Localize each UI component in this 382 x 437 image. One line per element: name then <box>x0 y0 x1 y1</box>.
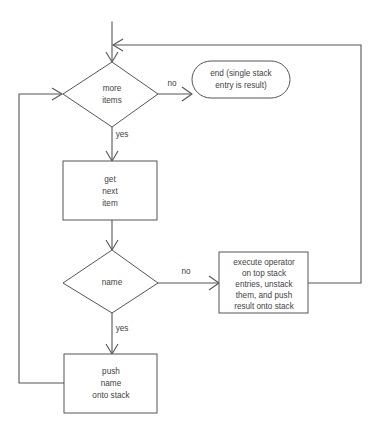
push-name-label-line2: name <box>101 379 122 388</box>
edge-label-more-items-no: no <box>167 79 177 88</box>
node-end-result[interactable]: end (single stack entry is result) <box>192 61 290 98</box>
push-name-label-line1: push <box>102 367 120 376</box>
edge-label-name-yes: yes <box>116 324 129 333</box>
get-next-item-label-line2: next <box>102 187 118 196</box>
edge-name-yes <box>106 313 118 354</box>
edge-push-to-more-items <box>19 88 64 383</box>
more-items-label-line2: items <box>102 96 122 105</box>
edge-line-left-loop <box>19 94 64 383</box>
execute-operator-label-line1: execute operator <box>233 258 295 267</box>
node-get-next-item[interactable]: get next item <box>63 161 157 220</box>
edge-more-items-no <box>158 87 192 101</box>
execute-operator-label-line3: entries, unstack <box>235 280 293 289</box>
end-result-label-line2: entry is result) <box>215 81 267 90</box>
execute-operator-label-line4: them, and push <box>236 291 293 300</box>
flowchart-svg: more items end (single stack entry is re… <box>0 0 382 437</box>
node-name-check[interactable]: name <box>63 250 158 313</box>
edge-name-no <box>158 276 219 290</box>
get-next-item-label-line1: get <box>104 175 116 184</box>
node-more-items[interactable]: more items <box>63 62 158 127</box>
edge-label-more-items-yes: yes <box>116 130 129 139</box>
node-execute-operator[interactable]: execute operator on top stack entries, u… <box>219 252 308 313</box>
get-next-item-label-line3: item <box>102 199 118 208</box>
edge-start-to-more-items <box>106 22 118 62</box>
flowchart-canvas: more items end (single stack entry is re… <box>0 0 382 437</box>
end-result-rounded-shape[interactable] <box>192 61 290 98</box>
push-name-label-line3: onto stack <box>92 391 130 400</box>
node-push-name[interactable]: push name onto stack <box>64 354 157 413</box>
execute-operator-label-line5: result onto stack <box>234 302 295 311</box>
execute-operator-label-line2: on top stack <box>242 269 287 278</box>
name-check-label-line1: name <box>102 278 123 287</box>
edge-label-name-no: no <box>181 267 191 276</box>
more-items-label-line1: more <box>103 84 122 93</box>
more-items-diamond-shape[interactable] <box>63 62 158 127</box>
edge-get-to-name <box>106 220 118 250</box>
end-result-label-line1: end (single stack <box>210 69 272 78</box>
